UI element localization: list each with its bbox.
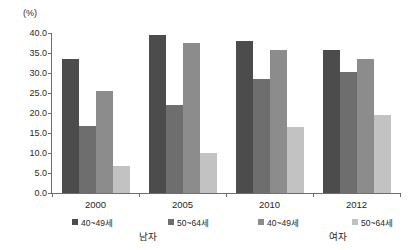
y-axis-tick-mark	[48, 113, 52, 114]
bar	[323, 50, 340, 193]
y-axis-tick-label: 40.0	[0, 28, 47, 38]
legend-item[interactable]: 50~64세	[352, 216, 393, 228]
x-axis-tick-mark	[313, 193, 314, 197]
x-axis-tick-label: 2012	[346, 199, 367, 210]
legend-label: 50~64세	[361, 216, 393, 228]
y-axis-tick-mark	[48, 153, 52, 154]
legend-item[interactable]: 40~49세	[258, 216, 299, 228]
y-axis-tick-label: 25.0	[0, 88, 47, 98]
y-axis-tick-label: 30.0	[0, 68, 47, 78]
bar-group-bars	[52, 33, 139, 193]
x-axis-tick-label: 2010	[259, 199, 280, 210]
y-axis-tick-mark	[48, 93, 52, 94]
legend-swatch-icon	[352, 219, 358, 225]
y-axis-tick-label: 10.0	[0, 148, 47, 158]
bar-group-bars	[226, 33, 313, 193]
y-axis-unit-label: (%)	[23, 8, 37, 18]
y-axis-tick-mark	[48, 133, 52, 134]
legend-swatch-icon	[168, 219, 174, 225]
y-axis-tick-mark	[48, 33, 52, 34]
x-axis-tick-mark	[400, 193, 401, 197]
legend-swatch-icon	[72, 219, 78, 225]
legend-group-label: 여자	[329, 229, 347, 243]
bar	[96, 91, 113, 193]
legend-swatch-icon	[258, 219, 264, 225]
bar	[270, 50, 287, 193]
bar-group-bars	[139, 33, 226, 193]
x-axis-tick-mark	[52, 193, 53, 197]
bar	[253, 79, 270, 193]
legend-label: 40~49세	[81, 216, 113, 228]
bar	[236, 41, 253, 193]
bar	[79, 126, 96, 193]
x-axis-tick-label: 2005	[172, 199, 193, 210]
y-axis-tick-mark	[48, 53, 52, 54]
bar	[340, 72, 357, 193]
y-axis-tick-label: 5.0	[0, 168, 47, 178]
legend-item[interactable]: 50~64세	[168, 216, 209, 228]
bar	[166, 105, 183, 193]
bar	[374, 115, 391, 193]
bar	[200, 153, 217, 193]
bar	[62, 59, 79, 193]
bar-chart: (%) 0.05.010.015.020.025.030.035.040.0 2…	[0, 0, 420, 250]
y-axis-tick-mark	[48, 73, 52, 74]
bar-group	[139, 33, 226, 193]
bar-group	[313, 33, 400, 193]
bar	[357, 59, 374, 193]
bar	[149, 35, 166, 193]
x-axis-tick-mark	[226, 193, 227, 197]
bar	[183, 43, 200, 193]
legend-group-label: 남자	[139, 229, 157, 243]
y-axis-tick-label: 35.0	[0, 48, 47, 58]
legend-label: 40~49세	[267, 216, 299, 228]
y-axis-tick-label: 15.0	[0, 128, 47, 138]
x-axis-tick-label: 2000	[85, 199, 106, 210]
bar-group	[226, 33, 313, 193]
legend-label: 50~64세	[177, 216, 209, 228]
bar-group	[52, 33, 139, 193]
y-axis-tick-label: 20.0	[0, 108, 47, 118]
plot-area	[52, 33, 400, 193]
x-axis-tick-mark	[139, 193, 140, 197]
bar	[287, 127, 304, 193]
y-axis-tick-label: 0.0	[0, 188, 47, 198]
bar-group-bars	[313, 33, 400, 193]
legend-item[interactable]: 40~49세	[72, 216, 113, 228]
bar	[113, 166, 130, 193]
y-axis-tick-mark	[48, 173, 52, 174]
